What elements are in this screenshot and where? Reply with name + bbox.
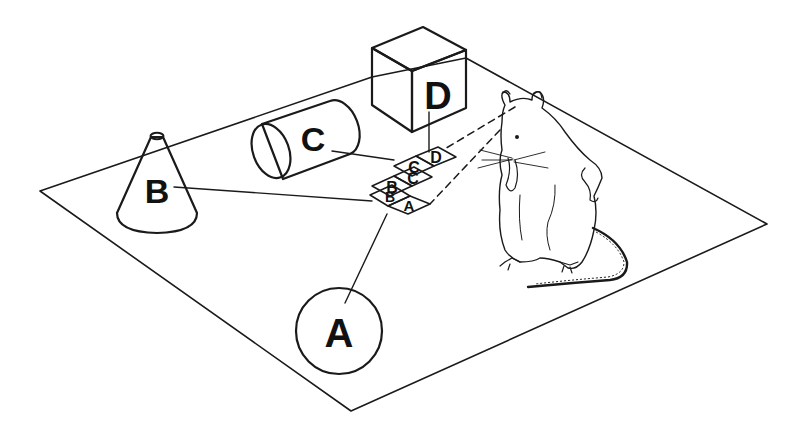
cube-object-d: D <box>372 27 466 132</box>
cube-label: D <box>424 75 451 117</box>
diagram-canvas: B C D A B A B <box>0 0 803 435</box>
cylinder-object-c: C <box>245 100 360 183</box>
disc-object-a: A <box>296 288 382 374</box>
card-row-top: C D <box>394 147 456 176</box>
cone-object-b: B <box>117 133 197 233</box>
card-label: D <box>430 149 442 166</box>
card-label: A <box>404 197 415 214</box>
disc-label: A <box>325 311 354 355</box>
arena-floor <box>40 58 767 411</box>
cone-label: B <box>145 172 170 210</box>
card-array: B A B C C D <box>370 147 456 214</box>
card-label: B <box>386 179 398 196</box>
card-label: C <box>408 159 420 176</box>
rat-eye <box>515 135 519 139</box>
cylinder-label: C <box>301 120 326 158</box>
rat-figure <box>478 91 627 287</box>
